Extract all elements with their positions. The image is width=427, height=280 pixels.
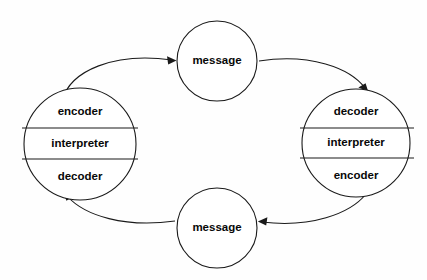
communication-cycle-diagram: encoder interpreter decoder decoder inte… <box>0 0 427 280</box>
right-agent-band-encoder: encoder <box>334 169 379 181</box>
right-to-bottom-message-curve <box>262 194 366 223</box>
left-agent-band-encoder: encoder <box>58 105 103 117</box>
right-agent-node[interactable]: decoder interpreter encoder <box>300 89 414 197</box>
right-agent-band-decoder: decoder <box>334 105 379 117</box>
right-agent-band-interpreter: interpreter <box>327 136 385 148</box>
left-agent-band-interpreter: interpreter <box>51 137 109 149</box>
connector-top-message-to-right <box>259 59 368 92</box>
top-message-node[interactable]: message <box>177 21 257 101</box>
arrow-head-to-top-message <box>167 56 177 64</box>
bottom-message-label: message <box>192 221 241 233</box>
top-message-label: message <box>192 54 241 66</box>
left-agent-band-decoder: decoder <box>58 170 103 182</box>
bottom-message-node[interactable]: message <box>177 188 257 268</box>
left-agent-node[interactable]: encoder interpreter decoder <box>22 88 138 200</box>
arrow-head-to-bottom-message <box>258 217 268 225</box>
top-message-to-right-curve <box>259 59 365 88</box>
connector-right-to-bottom-message <box>258 194 366 226</box>
diagram-canvas: encoder interpreter decoder decoder inte… <box>0 0 427 280</box>
